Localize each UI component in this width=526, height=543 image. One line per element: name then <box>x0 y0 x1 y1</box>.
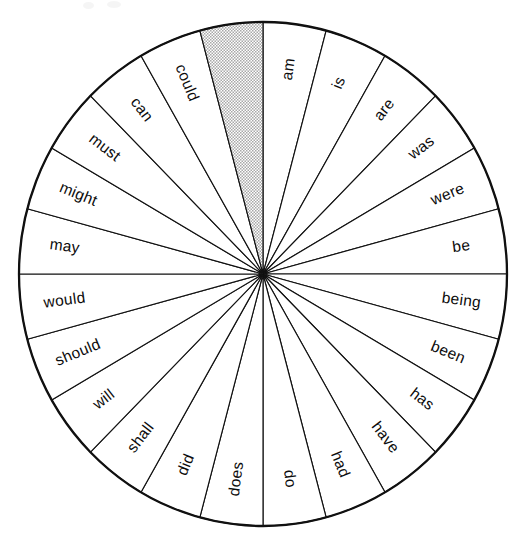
wheel-sectors-group <box>19 22 507 526</box>
wheel-label-be: be <box>451 236 471 255</box>
wheel-label-am: am <box>278 57 298 81</box>
wheel-label-do: do <box>281 469 300 489</box>
auxiliary-verb-wheel-figure: amisarewaswerebebeingbeenhashavehaddodoe… <box>0 0 526 543</box>
wheel-svg: amisarewaswerebebeingbeenhashavehaddodoe… <box>0 0 526 543</box>
scan-artifact-a <box>83 2 94 9</box>
scan-artifact-b <box>107 1 121 8</box>
